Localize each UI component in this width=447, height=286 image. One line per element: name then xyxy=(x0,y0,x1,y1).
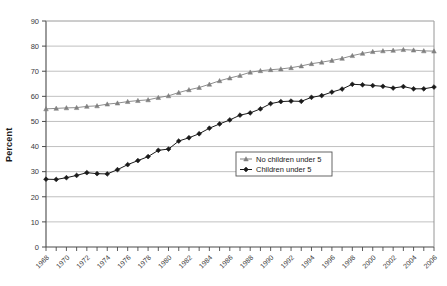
data-point-marker xyxy=(258,106,263,111)
data-point-marker xyxy=(105,172,110,177)
data-point-marker xyxy=(238,113,243,118)
x-tick-label: 1972 xyxy=(75,254,91,270)
y-tick-label: 80 xyxy=(31,42,39,51)
data-point-marker xyxy=(44,177,49,182)
data-point-marker xyxy=(381,84,386,89)
y-tick-label: 30 xyxy=(31,167,39,176)
x-axis-tick-labels: 1968197019721974197619781980198219841986… xyxy=(34,254,438,270)
series-line xyxy=(46,50,434,109)
x-tick-label: 2006 xyxy=(422,254,438,270)
y-tick-label: 20 xyxy=(31,193,39,202)
data-point-marker xyxy=(370,83,375,88)
data-point-marker xyxy=(84,170,89,175)
data-point-marker xyxy=(421,86,426,91)
data-point-marker xyxy=(340,87,345,92)
x-tick-label: 1982 xyxy=(177,254,193,270)
chart-legend: No children under 5Children under 5 xyxy=(236,152,332,176)
x-tick-label: 2002 xyxy=(381,254,397,270)
data-point-marker xyxy=(197,131,202,136)
data-point-marker xyxy=(329,90,334,95)
data-point-marker xyxy=(401,84,406,89)
x-tick-label: 2004 xyxy=(402,254,418,270)
data-point-marker xyxy=(135,158,140,163)
data-point-marker xyxy=(187,135,192,140)
data-point-marker xyxy=(146,154,151,159)
y-tick-label: 70 xyxy=(31,67,39,76)
data-point-marker xyxy=(278,99,283,104)
y-axis-tick-labels: 0102030405060708090 xyxy=(31,17,39,252)
data-point-marker xyxy=(319,93,324,98)
data-point-marker xyxy=(74,173,79,178)
legend-item-label: Children under 5 xyxy=(256,165,311,174)
y-tick-label: 90 xyxy=(31,17,39,26)
x-tick-label: 1994 xyxy=(300,254,316,270)
x-tick-label: 1998 xyxy=(341,254,357,270)
data-point-marker xyxy=(360,82,365,87)
x-tick-label: 1968 xyxy=(34,254,50,270)
data-point-marker xyxy=(350,82,355,87)
y-tick-label: 0 xyxy=(35,243,39,252)
x-tick-label: 1978 xyxy=(136,254,152,270)
x-tick-label: 1996 xyxy=(320,254,336,270)
series-1 xyxy=(44,47,437,111)
x-tick-label: 1988 xyxy=(238,254,254,270)
data-point-marker xyxy=(309,95,314,100)
y-axis-ticks xyxy=(42,21,46,247)
data-point-marker xyxy=(64,175,69,180)
data-point-marker xyxy=(432,85,437,90)
x-tick-label: 1970 xyxy=(55,254,71,270)
y-tick-label: 10 xyxy=(31,218,39,227)
data-point-marker xyxy=(125,162,130,167)
data-point-marker xyxy=(391,86,396,91)
x-tick-label: 1990 xyxy=(259,254,275,270)
data-point-marker xyxy=(299,99,304,104)
x-axis-ticks xyxy=(46,247,434,251)
data-point-marker xyxy=(289,99,294,104)
data-point-marker xyxy=(207,126,212,131)
x-tick-label: 1986 xyxy=(218,254,234,270)
data-point-marker xyxy=(248,111,253,116)
data-point-marker xyxy=(268,101,273,106)
x-tick-label: 1992 xyxy=(279,254,295,270)
data-point-marker xyxy=(156,148,161,153)
data-point-marker xyxy=(54,177,59,182)
y-tick-label: 50 xyxy=(31,117,39,126)
data-point-marker xyxy=(411,86,416,91)
plot-frame xyxy=(46,21,434,247)
line-chart-plot: 0102030405060708090 19681970197219741976… xyxy=(0,0,447,286)
y-tick-label: 40 xyxy=(31,142,39,151)
x-tick-label: 1976 xyxy=(116,254,132,270)
data-point-marker xyxy=(217,122,222,127)
x-tick-label: 1980 xyxy=(157,254,173,270)
x-tick-label: 1974 xyxy=(96,254,112,270)
x-tick-label: 2000 xyxy=(361,254,377,270)
legend-item-label: No children under 5 xyxy=(256,155,321,164)
x-tick-label: 1984 xyxy=(198,254,214,270)
y-tick-label: 60 xyxy=(31,92,39,101)
chart-container: Percent 0102030405060708090 196819701972… xyxy=(0,0,447,286)
